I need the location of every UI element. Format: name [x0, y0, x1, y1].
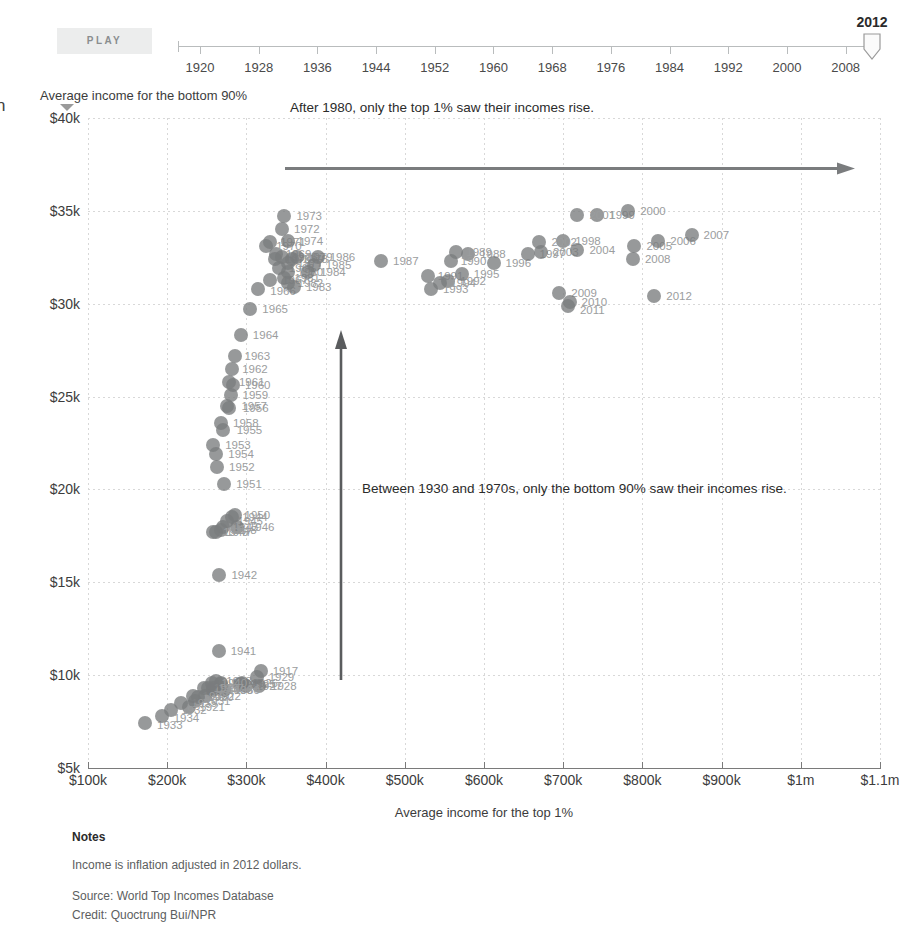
data-point-2001[interactable] — [570, 208, 584, 222]
data-point-1958[interactable] — [214, 416, 228, 430]
timeline-tick-label: 1960 — [479, 60, 508, 75]
data-point-1997[interactable] — [521, 247, 535, 261]
data-point-2012[interactable] — [647, 289, 661, 303]
data-point-label-2010: 2010 — [582, 296, 608, 308]
x-axis-tick — [167, 762, 168, 769]
data-point-1961[interactable] — [222, 375, 236, 389]
data-point-1994[interactable] — [433, 276, 447, 290]
data-point-1951[interactable] — [217, 477, 231, 491]
data-point-2006[interactable] — [651, 234, 665, 248]
data-point-1941[interactable] — [212, 644, 226, 658]
x-axis-tick — [563, 762, 564, 769]
data-point-1998[interactable] — [556, 234, 570, 248]
x-axis-tick-label: $900k — [703, 772, 741, 788]
data-point-1929[interactable] — [250, 670, 264, 684]
gridline-vertical — [88, 118, 89, 768]
data-point-label-1986: 1986 — [330, 251, 356, 263]
timeline-tick — [787, 46, 788, 54]
data-point-1963[interactable] — [228, 349, 242, 363]
notes-source-credit: Source: World Top Incomes Database Credi… — [72, 887, 572, 924]
x-axis-tick-label: $300k — [227, 772, 265, 788]
data-point-1983[interactable] — [287, 280, 301, 294]
current-year-label: 2012 — [856, 14, 887, 30]
timeline-tick-label: 1984 — [655, 60, 684, 75]
data-point-1987[interactable] — [374, 254, 388, 268]
data-point-2003[interactable] — [534, 245, 548, 259]
timeline-slider-handle[interactable] — [863, 33, 881, 60]
data-point-1973[interactable] — [277, 209, 291, 223]
data-point-1965[interactable] — [243, 302, 257, 316]
data-point-1990[interactable] — [444, 254, 458, 268]
gridline-vertical — [167, 118, 168, 768]
gridline-vertical — [722, 118, 723, 768]
gridline-vertical — [801, 118, 802, 768]
data-point-1971[interactable] — [263, 235, 277, 249]
x-axis-tick-label: $400k — [307, 772, 345, 788]
data-point-2011[interactable] — [561, 299, 575, 313]
data-point-1934[interactable] — [155, 709, 169, 723]
data-point-1966[interactable] — [251, 282, 265, 296]
scatter-plot-area: 1917191819191920192119221923192419251926… — [88, 118, 880, 768]
timeline-tick-label: 1944 — [362, 60, 391, 75]
data-point-1986[interactable] — [311, 250, 325, 264]
timeline-tick — [670, 46, 671, 54]
data-point-label-1942: 1942 — [231, 569, 257, 581]
data-point-label-1934: 1934 — [174, 712, 200, 724]
data-point-1974[interactable] — [281, 234, 295, 248]
data-point-1962[interactable] — [225, 362, 239, 376]
x-axis-tick — [642, 762, 643, 769]
x-axis-tick-label: $1.1m — [861, 772, 900, 788]
data-point-1996[interactable] — [487, 256, 501, 270]
timeline-tick-label: 1928 — [244, 60, 273, 75]
data-point-1942[interactable] — [212, 568, 226, 582]
data-point-1999[interactable] — [590, 208, 604, 222]
data-point-1949[interactable] — [206, 525, 220, 539]
x-axis-tick-label: $500k — [386, 772, 424, 788]
data-point-label-1973: 1973 — [296, 210, 322, 222]
data-point-1933[interactable] — [138, 716, 152, 730]
data-point-label-1957: 1957 — [241, 400, 267, 412]
data-point-1952[interactable] — [210, 460, 224, 474]
timeline-tick-label: 2008 — [831, 60, 860, 75]
data-point-label-2011: 2011 — [580, 304, 605, 316]
data-point-label-1952: 1952 — [229, 461, 255, 473]
data-point-label-1955: 1955 — [237, 424, 263, 436]
notes-inflation-line: Income is inflation adjusted in 2012 dol… — [72, 857, 572, 874]
x-axis-tick — [246, 762, 247, 769]
vertical-arrow-icon — [334, 330, 348, 680]
data-point-2005[interactable] — [627, 239, 641, 253]
gridline-vertical — [642, 118, 643, 768]
data-point-2008[interactable] — [626, 252, 640, 266]
play-button[interactable]: PLAY — [57, 28, 152, 54]
data-point-label-1951: 1951 — [236, 478, 262, 490]
data-point-1950[interactable] — [228, 508, 242, 522]
y-axis-tick-label: $10k — [50, 667, 80, 683]
notes-title: Notes — [72, 830, 572, 844]
data-point-label-1950: 1950 — [245, 509, 271, 521]
data-point-2000[interactable] — [621, 204, 635, 218]
timeline-tick — [611, 46, 612, 54]
data-point-1995[interactable] — [455, 267, 469, 281]
x-axis-title: Average income for the top 1% — [395, 805, 573, 820]
gridline-vertical — [405, 118, 406, 768]
timeline-tick-label: 1920 — [186, 60, 215, 75]
timeline-tick-label: 1976 — [596, 60, 625, 75]
data-point-1954[interactable] — [209, 447, 223, 461]
gridline-vertical — [484, 118, 485, 768]
timeline-tick — [200, 46, 201, 54]
notes-section: Notes Income is inflation adjusted in 20… — [72, 830, 572, 925]
x-axis-tick-label: $600k — [465, 772, 503, 788]
data-point-1988[interactable] — [461, 247, 475, 261]
data-point-label-2004: 2004 — [589, 244, 615, 256]
data-point-1979[interactable] — [290, 250, 304, 264]
data-point-1964[interactable] — [234, 328, 248, 342]
data-point-2007[interactable] — [685, 228, 699, 242]
data-point-2004[interactable] — [570, 243, 584, 257]
data-point-1940[interactable] — [205, 676, 219, 690]
timeline-tick — [846, 46, 847, 54]
x-axis-tick — [405, 762, 406, 769]
data-point-label-1974: 1974 — [298, 235, 324, 247]
annotation-middle: Between 1930 and 1970s, only the bottom … — [362, 481, 787, 496]
y-axis-title: Average income for the bottom 90% — [40, 88, 247, 103]
timeline-tick-label: 1992 — [714, 60, 743, 75]
